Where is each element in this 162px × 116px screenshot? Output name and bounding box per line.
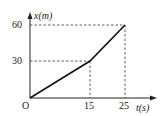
x-axis-label: t(s) [136,103,149,113]
origin-label: O [22,101,29,111]
x-tick-15: 15 [84,101,94,111]
xt-graph [0,0,162,116]
y-tick-30: 30 [12,56,22,66]
y-axis-arrow-icon [28,12,33,19]
data-line [30,25,125,98]
x-axis-arrow-icon [150,96,157,101]
guide-lines [30,25,125,98]
y-axis-label: x(m) [34,11,52,21]
y-tick-60: 60 [12,20,22,30]
x-tick-25: 25 [119,101,129,111]
